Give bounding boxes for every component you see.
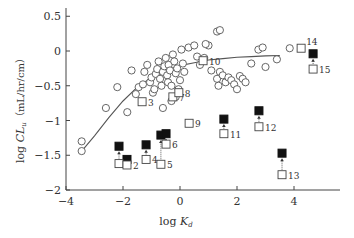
- open-circle-point: [233, 86, 240, 93]
- open-circle-point: [262, 63, 269, 70]
- y-tick-label: 0: [54, 45, 61, 58]
- open-square-point: [220, 130, 228, 138]
- open-circle-point: [168, 82, 175, 89]
- open-circle-point: [151, 86, 158, 93]
- open-square-point: [185, 119, 193, 127]
- point-label: 15: [319, 65, 331, 75]
- open-circle-point: [248, 60, 255, 67]
- filled-square-point: [220, 115, 228, 123]
- open-circle-point: [273, 56, 280, 63]
- y-tick-label: −0.5: [34, 80, 61, 93]
- open-circle-point: [78, 138, 85, 145]
- open-circle-point: [216, 27, 223, 34]
- y-axis-label: log CLu（mL/hr/cm）: [14, 53, 28, 163]
- open-circle-point: [78, 147, 85, 154]
- y-tick-label: 0.5: [44, 10, 62, 23]
- open-square-point: [115, 160, 123, 168]
- point-label: 13: [288, 171, 300, 181]
- open-circle-point: [181, 68, 188, 75]
- x-tick-label: 4: [291, 195, 298, 208]
- open-circle-point: [156, 75, 163, 82]
- x-axis-label: log Kd: [159, 215, 193, 229]
- point-label: 2: [133, 161, 139, 171]
- open-circle-point: [124, 109, 131, 116]
- open-circle-point: [242, 79, 249, 86]
- open-circle-point: [141, 68, 148, 75]
- arrowhead-icon: [117, 151, 121, 154]
- open-square-point: [199, 57, 207, 65]
- open-circle-point: [158, 82, 165, 89]
- open-circle-point: [144, 61, 151, 68]
- open-circle-point: [128, 67, 135, 74]
- open-square-point: [123, 161, 131, 169]
- open-circle-point: [169, 51, 176, 58]
- open-square-point: [138, 98, 146, 106]
- point-label: 12: [265, 123, 276, 133]
- open-square-point: [142, 155, 150, 163]
- point-label: 14: [306, 37, 318, 47]
- open-circle-point: [259, 44, 266, 51]
- open-circle-point: [176, 77, 183, 84]
- x-tick-label: 0: [177, 195, 184, 208]
- open-circle-point: [178, 46, 185, 53]
- open-circle-point: [139, 81, 146, 88]
- open-square-point: [175, 89, 183, 97]
- open-square-point: [162, 140, 170, 148]
- x-tick-label: −4: [58, 195, 74, 208]
- point-label: 11: [230, 130, 241, 140]
- open-circle-point: [286, 45, 293, 52]
- open-circle-point: [191, 42, 198, 49]
- arrowhead-icon: [222, 124, 226, 127]
- filled-square-point: [142, 141, 150, 149]
- open-circle-point: [215, 82, 222, 89]
- open-circle-point: [179, 60, 186, 67]
- y-tick-label: −1: [45, 115, 61, 128]
- x-tick-label: 2: [234, 195, 241, 208]
- y-tick-label: −1.5: [34, 149, 61, 162]
- arrowhead-icon: [311, 59, 315, 62]
- open-circle-point: [162, 54, 169, 61]
- arrowhead-icon: [257, 116, 261, 119]
- open-square-point: [255, 123, 263, 131]
- scatter-chart: 0.50−0.5−1−1.5−2−4−2024 1234567891011121…: [0, 0, 354, 238]
- filled-square-point: [278, 149, 286, 157]
- filled-square-point: [255, 107, 263, 115]
- arrowhead-icon: [144, 150, 148, 153]
- point-label: 5: [167, 160, 173, 170]
- point-label: 6: [172, 140, 178, 150]
- open-circle-point: [102, 104, 109, 111]
- arrowhead-icon: [280, 158, 284, 161]
- point-label: 3: [148, 98, 154, 108]
- point-label: 9: [195, 119, 201, 129]
- filled-square-point: [115, 142, 123, 150]
- point-label: 8: [185, 89, 191, 99]
- open-circle-point: [132, 90, 139, 97]
- open-circle-point: [208, 67, 215, 74]
- point-label: 10: [209, 57, 221, 67]
- filled-square-point: [309, 50, 317, 58]
- filled-square-point: [162, 130, 170, 138]
- open-square-point: [297, 44, 305, 52]
- open-circle-point: [202, 40, 209, 47]
- open-square-point: [157, 160, 165, 168]
- open-circle-point: [171, 58, 178, 65]
- open-square-point: [278, 171, 286, 179]
- x-tick-label: −2: [115, 195, 131, 208]
- open-square-point: [309, 65, 317, 73]
- open-circle-point: [114, 84, 121, 91]
- open-circle-point: [159, 104, 166, 111]
